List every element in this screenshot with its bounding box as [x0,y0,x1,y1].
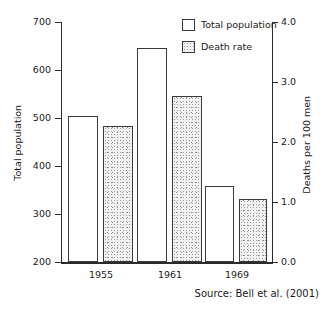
y-axis-left-tick-label: 400 [33,161,51,171]
y-axis-left-tick-label: 700 [33,17,51,27]
bar-death-rate-1969 [239,199,267,262]
chart-legend: Total population Death rate [182,16,277,60]
bar-total-population-1955 [68,116,98,262]
y-axis-right-title: Deaths per 100 men [302,96,312,194]
x-axis-category-label: 1969 [205,270,269,280]
bar-death-rate-1955 [103,126,133,262]
legend-label: Death rate [201,42,252,52]
legend-item-total-population: Total population [182,16,277,33]
y-axis-right-tick-label: 2.0 [281,137,296,147]
stippled-box-icon [182,41,195,53]
y-axis-left-title: Total population [13,98,23,188]
y-axis-right-tick-label: 4.0 [281,17,296,27]
x-axis-line [61,262,273,264]
legend-item-death-rate: Death rate [182,38,277,55]
y-axis-left-tick-label: 200 [33,257,51,267]
y-axis-right-tick-label: 1.0 [281,197,296,207]
y-axis-left-tick-label: 600 [33,65,51,75]
legend-label: Total population [201,20,277,30]
bar-total-population-1961 [137,48,167,262]
bar-total-population-1969 [205,186,234,262]
y-axis-left-tick-label: 500 [33,113,51,123]
y-axis-right-tick [272,262,278,263]
y-axis-left-tick-label: 300 [33,209,51,219]
source-note: Source: Bell et al. (2001) [195,288,319,299]
chart-figure: 200 300 400 500 600 700 0.0 1.0 2.0 3.0 … [0,0,327,314]
bar-death-rate-1961 [172,96,202,262]
x-axis-category-label: 1955 [68,270,134,280]
y-axis-right-tick-label: 0.0 [281,257,296,267]
outline-box-icon [182,19,195,31]
y-axis-right-tick-label: 3.0 [281,77,296,87]
y-axis-left-tick [55,262,61,263]
x-axis-category-label: 1961 [137,270,203,280]
